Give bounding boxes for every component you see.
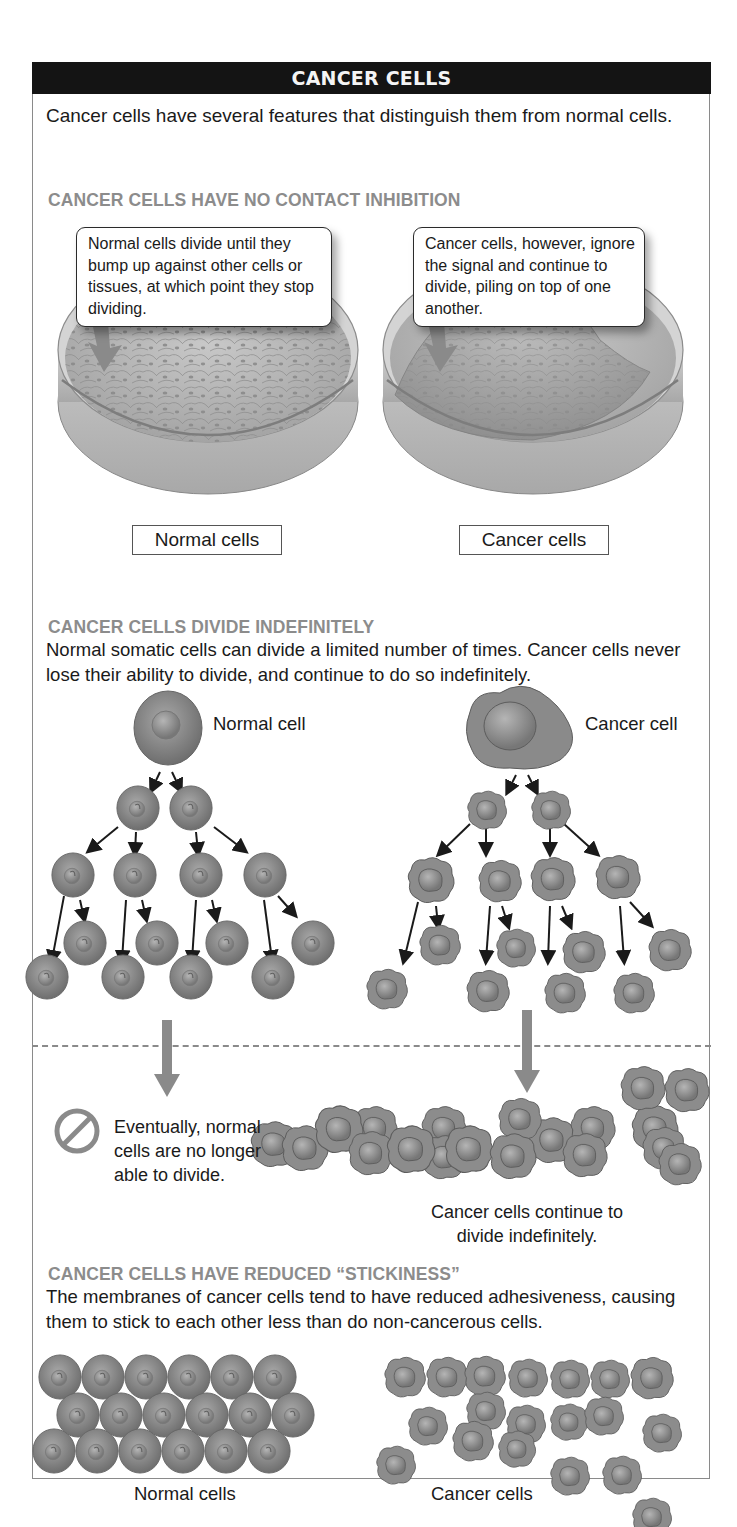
label-cancer-cells-loose: Cancer cells [431,1482,533,1506]
down-arrow-icon-cancer [514,1010,540,1093]
cancer-cell-cluster [251,1067,709,1185]
outcome-normal-text: Eventually, normal cells are no longer a… [114,1115,294,1187]
label-normal-cells-packed: Normal cells [134,1482,236,1506]
section-body-stickiness: The membranes of cancer cells tend to ha… [46,1284,716,1334]
label-cancer-cell: Cancer cell [585,713,678,735]
normal-cells-packed [33,1355,314,1473]
outcome-cancer-text: Cancer cells continue to divide indefini… [416,1200,638,1248]
normal-cell-tree [26,691,334,999]
cancer-cell-tree [367,686,691,1013]
down-arrow-icon-normal [154,1020,180,1097]
divider-dashed [32,1045,711,1047]
label-normal-cell: Normal cell [213,713,306,735]
section-title-stickiness: CANCER CELLS HAVE REDUCED “STICKINESS” [48,1264,460,1285]
prohibited-icon [57,1111,97,1151]
